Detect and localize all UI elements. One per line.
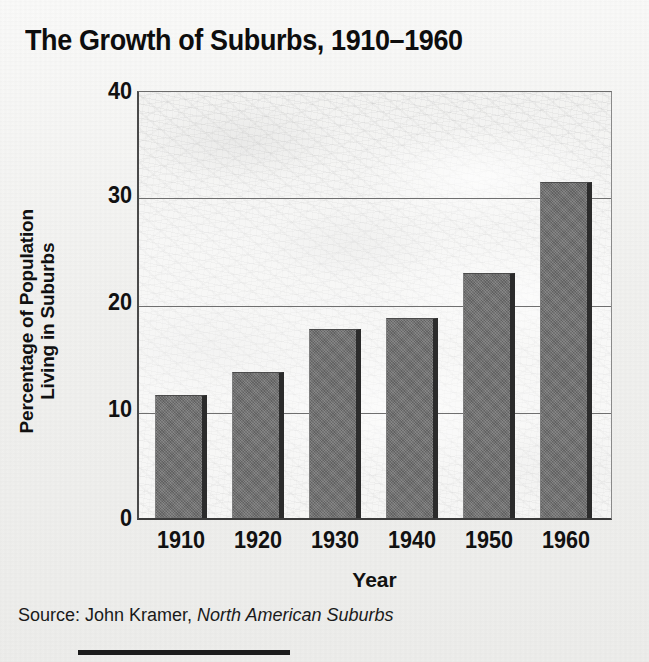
bar-1940[interactable] bbox=[386, 318, 438, 520]
y-axis-title-line-1: Percentage of Population bbox=[16, 156, 37, 486]
bottom-rule bbox=[78, 650, 290, 655]
bar-1920[interactable] bbox=[232, 372, 284, 520]
gridline-40 bbox=[137, 91, 612, 92]
y-tick-30: 30 bbox=[79, 182, 132, 209]
y-axis-ticks: 40 30 20 10 0 bbox=[70, 0, 132, 662]
bar-1910[interactable] bbox=[155, 395, 207, 520]
x-tick-1940: 1940 bbox=[370, 527, 455, 554]
x-tick-1950: 1950 bbox=[447, 527, 532, 554]
x-tick-1920: 1920 bbox=[216, 527, 301, 554]
x-tick-1910: 1910 bbox=[139, 527, 224, 554]
source-publication-title: North American Suburbs bbox=[197, 605, 393, 625]
chart-page: The Growth of Suburbs, 1910–1960 40 30 2… bbox=[0, 0, 649, 662]
bar-1930[interactable] bbox=[309, 329, 361, 520]
bar-1950[interactable] bbox=[463, 273, 515, 520]
x-tick-1930: 1930 bbox=[293, 527, 378, 554]
y-tick-20: 20 bbox=[79, 289, 132, 316]
y-tick-40: 40 bbox=[79, 78, 132, 105]
x-axis-title: Year bbox=[137, 568, 612, 592]
source-prefix: Source: John Kramer, bbox=[18, 605, 197, 625]
y-axis-title-line-2: Living in Suburbs bbox=[37, 156, 58, 486]
y-axis-title: Percentage of Population Living in Subur… bbox=[16, 156, 59, 486]
bar-1960[interactable] bbox=[540, 182, 592, 520]
plot-area bbox=[137, 91, 612, 520]
y-tick-10: 10 bbox=[79, 396, 132, 423]
source-caption: Source: John Kramer, North American Subu… bbox=[18, 605, 394, 626]
x-tick-1960: 1960 bbox=[524, 527, 609, 554]
y-tick-0: 0 bbox=[79, 505, 132, 532]
